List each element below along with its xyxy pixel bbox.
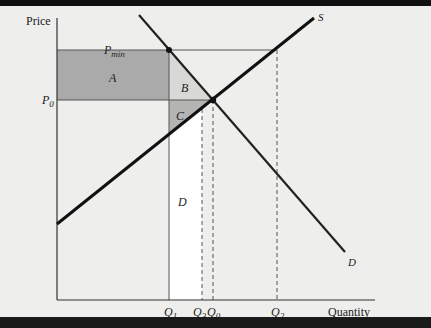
p0-label: P0	[41, 93, 54, 109]
pmin-label: Pmin	[103, 43, 125, 59]
demand-label: D	[347, 256, 356, 268]
equilibrium-point	[210, 97, 216, 103]
chart-canvas: Price Quantity Pmin P0 Q1 Q3 Q0 Q2 S D A…	[0, 0, 431, 328]
region-d-label: D	[177, 195, 187, 209]
region-a-label: A	[108, 71, 117, 85]
bottom-border	[0, 317, 431, 328]
supply-label: S	[318, 11, 324, 23]
y-axis-label: Price	[26, 14, 51, 28]
pmin-demand-point	[166, 47, 172, 53]
region-b-label: B	[181, 81, 189, 95]
region-c-label: C	[176, 109, 185, 123]
